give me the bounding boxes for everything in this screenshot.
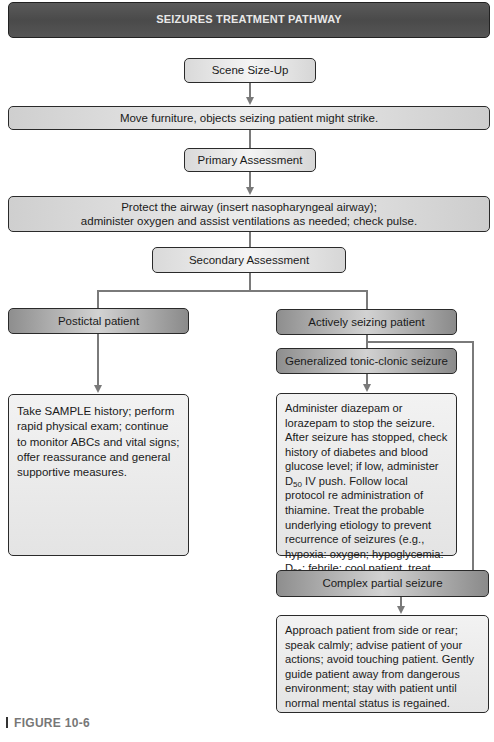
figure-caption: FIGURE 10-6 [6,716,90,730]
secondary-assessment-box: Secondary Assessment [152,247,346,273]
complex-partial-instructions-text: Approach patient from side or rear; spea… [285,623,480,710]
connector-line [249,273,251,291]
postictal-patient-box: Postictal patient [8,308,189,334]
scene-size-up-label: Scene Size-Up [212,63,289,77]
generalized-instructions: Administer diazepam or lorazepam to stop… [276,393,457,556]
branch-line [366,341,473,343]
connector-line [249,83,251,98]
primary-assessment-label: Primary Assessment [198,153,303,167]
generalized-seizure-label: Generalized tonic-clonic seizure [285,354,448,368]
move-furniture-box: Move furniture, objects seizing patient … [8,106,490,130]
secondary-assessment-label: Secondary Assessment [189,253,309,267]
connector-line [97,290,99,308]
figure-label: FIGURE 10-6 [14,716,90,730]
arrow-down-icon [94,385,102,393]
arrow-down-icon [246,97,254,105]
caption-bar [6,717,8,728]
primary-assessment-box: Primary Assessment [184,148,316,172]
arrow-down-icon [363,384,371,392]
postictal-instructions: Take SAMPLE history; perform rapid physi… [8,394,189,556]
connector-line [249,130,251,148]
text-part: IV push. Follow local protocol re admini… [285,475,444,574]
branch-line [97,290,367,292]
pathway-title-text: SEIZURES TREATMENT PATHWAY [156,13,342,27]
move-furniture-label: Move furniture, objects seizing patient … [120,111,378,125]
postictal-instructions-text: Take SAMPLE history; perform rapid physi… [17,404,180,480]
scene-size-up-box: Scene Size-Up [184,58,316,83]
actively-seizing-label: Actively seizing patient [308,315,424,329]
protect-airway-line2: administer oxygen and assist ventilation… [81,214,417,228]
generalized-instructions-text: Administer diazepam or lorazepam to stop… [285,401,448,590]
protect-airway-box: Protect the airway (insert nasopharyngea… [8,196,490,232]
complex-partial-instructions: Approach patient from side or rear; spea… [276,615,489,713]
connector-line [97,334,99,386]
pathway-title: SEIZURES TREATMENT PATHWAY [8,2,490,38]
arrow-down-icon [397,606,405,614]
generalized-seizure-box: Generalized tonic-clonic seizure [276,348,457,374]
protect-airway-line1: Protect the airway (insert nasopharyngea… [121,200,377,214]
connector-line [366,290,368,309]
complex-partial-seizure-label: Complex partial seizure [322,576,442,590]
arrow-down-icon [246,187,254,195]
subscript: 50 [293,480,302,489]
connector-line [472,341,474,570]
connector-line [249,232,251,247]
actively-seizing-box: Actively seizing patient [276,309,457,335]
connector-line [249,172,251,188]
postictal-patient-label: Postictal patient [58,314,139,328]
complex-partial-seizure-box: Complex partial seizure [276,570,489,597]
